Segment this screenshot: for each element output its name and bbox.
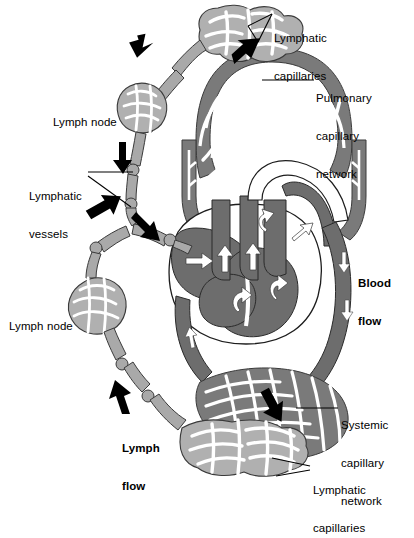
lymph-node-lower [68,278,126,334]
label-line: Lymph [122,442,160,455]
label-pulmonary-capillary-network: Pulmonary capillary network [316,67,372,206]
label-line: capillaries [313,522,366,535]
label-lymphatic-capillaries-bottom: Lymphatic capillaries [313,459,366,538]
label-lymphatic-vessels: Lymphatic vessels [29,165,82,266]
label-line: network [316,168,372,181]
label-line: Lymphatic [313,484,366,497]
label-line: flow [358,315,391,328]
label-blood-flow: Blood flow [358,252,391,353]
label-line: Blood [358,277,391,290]
label-line: Lymphatic [29,190,82,203]
label-line: vessels [29,228,82,241]
label-lymph-node-upper: Lymph node [53,91,117,154]
label-line: Lymph node [53,116,117,129]
label-lymph-node-lower: Lymph node [9,295,73,358]
label-line: Lymphatic [274,32,327,45]
label-line: Lymph node [9,320,73,333]
label-line: capillary [316,130,372,143]
lymph-node-upper [117,83,167,133]
label-line: Systemic [341,419,388,432]
lymphatic-capillary-network-bottom [180,420,308,476]
label-lymph-flow: Lymph flow [122,417,160,518]
label-line: Pulmonary [316,92,372,105]
label-line: flow [122,480,160,493]
